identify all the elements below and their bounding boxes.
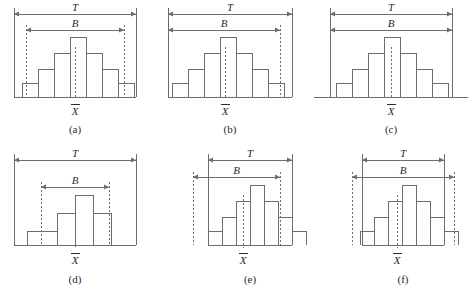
panel-a-spread-label: B [72,17,79,29]
panel-e-spread-arrow-right-head [275,174,280,179]
panel-d-spread-arrow-right-head [104,184,109,189]
panel-a-tolerance-label: T [72,1,79,13]
panel-c-caption: (c) [385,123,398,136]
panel-d-tolerance-arrow-left-head [14,157,19,162]
panel-a-histogram-outline [22,37,134,97]
panel-a-spread-arrow-right-head [119,27,124,32]
panel-f-spread-arrow-left-head [352,174,357,179]
panel-a-caption: (a) [69,123,82,136]
panel-a-tolerance-arrow-left-head [14,11,19,16]
panel-d-caption: (d) [69,273,82,286]
panel-e-mean-label: X [239,254,248,266]
panel-f-spread-label: B [400,164,407,176]
panel-c-spread-label: B [388,17,395,29]
panel-a-mean-label: X [71,105,80,117]
panel-e-caption: (e) [244,273,257,286]
panel-c-spread-arrow-left-head [330,27,335,32]
panel-d-tolerance-label: T [72,147,79,159]
panel-c-tolerance-arrow-right-head [447,11,452,16]
panel-b-tolerance-arrow-left-head [168,11,173,16]
panel-c-spread-arrow-right-head [447,27,452,32]
panel-d-tolerance-arrow-right-head [131,157,136,162]
panel-b-spread-arrow-left-head [168,27,173,32]
panel-b-caption: (b) [224,123,237,136]
figure-canvas: TBX(a)TBX(b)TBX(c)TBX(d)TBX(e)TBX(f) [0,0,472,302]
panel-b-spread-arrow-right-head [275,27,280,32]
panel-d-mean-label: X [71,254,80,266]
panel-f-mean-label: X [393,254,402,266]
panel-e-histogram-outline [208,185,306,245]
panel-f-tolerance-label: T [400,147,407,159]
panel-b-histogram-outline [172,37,284,97]
panel-f-histogram-outline [360,185,458,245]
panel-e-tolerance-arrow-left-head [208,157,213,162]
panel-e-tolerance-arrow-right-head [287,157,292,162]
panel-e-tolerance-label: T [247,147,254,159]
panel-e-spread-arrow-left-head [193,174,198,179]
panel-f-tolerance-arrow-left-head [362,157,367,162]
panel-f-tolerance-arrow-right-head [439,157,444,162]
panel-d-spread-label: B [72,174,79,186]
panel-b-tolerance-label: T [227,1,234,13]
panel-b-mean-label: X [221,105,230,117]
panel-e-spread-label: B [233,164,240,176]
panel-b-tolerance-arrow-right-head [287,11,292,16]
panel-a-spread-arrow-left-head [26,27,31,32]
panel-d-histogram-outline [27,195,111,245]
panel-b-spread-label: B [221,17,228,29]
panel-f-caption: (f) [398,273,409,286]
panel-c-mean-label: X [387,105,396,117]
panel-c-tolerance-label: T [388,1,395,13]
panel-f-spread-arrow-right-head [449,174,454,179]
process-capability-figure: TBX(a)TBX(b)TBX(c)TBX(d)TBX(e)TBX(f) [0,0,472,302]
panel-c-histogram-outline [336,37,448,97]
panel-c-tolerance-arrow-left-head [330,11,335,16]
panel-a-tolerance-arrow-right-head [131,11,136,16]
panel-d-spread-arrow-left-head [41,184,46,189]
